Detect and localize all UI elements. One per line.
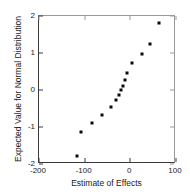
- data-point: [148, 43, 151, 46]
- data-point: [158, 22, 161, 25]
- y-tick-right: [170, 16, 174, 17]
- x-tick-label: 100: [168, 166, 181, 175]
- data-point: [131, 61, 134, 64]
- x-tick-top: [130, 16, 131, 20]
- x-tick: [176, 158, 177, 162]
- data-point: [110, 106, 113, 109]
- data-point: [101, 114, 104, 117]
- y-tick: [39, 90, 43, 91]
- y-tick: [39, 53, 43, 54]
- x-axis-title: Estimate of Effects: [38, 178, 175, 188]
- y-tick-right: [170, 127, 174, 128]
- data-point: [141, 53, 144, 56]
- y-tick-right: [170, 164, 174, 165]
- data-point: [76, 154, 79, 157]
- y-axis-title: Expected Value for Normal Distribution: [13, 14, 23, 164]
- x-tick-top: [176, 16, 177, 20]
- plot-area: [38, 15, 175, 163]
- data-point: [124, 79, 127, 82]
- y-tick: [39, 127, 43, 128]
- x-tick-top: [39, 16, 40, 20]
- y-tick-right: [170, 90, 174, 91]
- x-tick: [130, 158, 131, 162]
- x-tick: [39, 158, 40, 162]
- x-tick-top: [84, 16, 85, 20]
- y-tick: [39, 164, 43, 165]
- data-point: [90, 121, 93, 124]
- data-point: [126, 71, 129, 74]
- x-tick-label: -100: [76, 166, 92, 175]
- y-tick-right: [170, 53, 174, 54]
- x-tick-label: 0: [127, 166, 131, 175]
- data-point: [80, 131, 83, 134]
- data-point: [118, 94, 121, 97]
- data-point: [120, 89, 123, 92]
- normal-probability-plot-figure: -200-1000100 -2-1012 Estimate of Effects…: [0, 0, 190, 196]
- y-tick: [39, 16, 43, 17]
- data-point: [115, 98, 118, 101]
- x-tick: [84, 158, 85, 162]
- data-point: [122, 84, 125, 87]
